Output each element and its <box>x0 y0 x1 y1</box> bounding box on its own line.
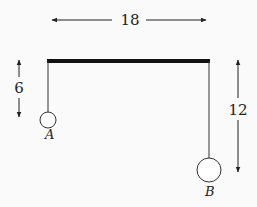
mass-a-label: A <box>44 127 54 142</box>
string-a-dimension: 6 <box>14 60 24 117</box>
beam-length-label: 18 <box>120 11 139 29</box>
mass-b <box>197 158 221 182</box>
mass-b-label: B <box>204 184 215 199</box>
string-b-length-label: 12 <box>228 101 247 119</box>
string-b-dimension: 12 <box>228 60 247 172</box>
diagram-canvas: 18 A B 6 12 <box>0 0 257 207</box>
string-a-length-label: 6 <box>14 79 24 97</box>
mass-a <box>40 112 56 128</box>
beam-length-dimension: 18 <box>52 11 206 29</box>
